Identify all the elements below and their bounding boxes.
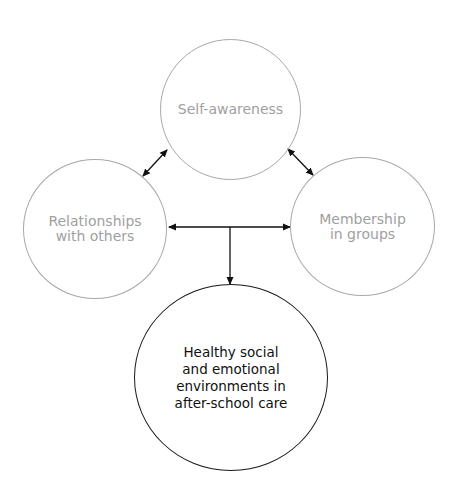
- node-label: Membership in groups: [319, 212, 406, 242]
- node-label: Self-awareness: [178, 102, 283, 117]
- node-label: Healthy social and emotional environment…: [175, 344, 288, 412]
- node-self-awareness: Self-awareness: [160, 39, 301, 180]
- node-label: Relationships with others: [48, 214, 141, 244]
- node-membership-in-groups: Membership in groups: [290, 157, 435, 296]
- arrow-self-relationships: [143, 150, 167, 176]
- node-healthy-environments: Healthy social and emotional environment…: [134, 284, 328, 471]
- node-relationships-with-others: Relationships with others: [23, 159, 167, 299]
- arrow-self-membership: [288, 149, 313, 175]
